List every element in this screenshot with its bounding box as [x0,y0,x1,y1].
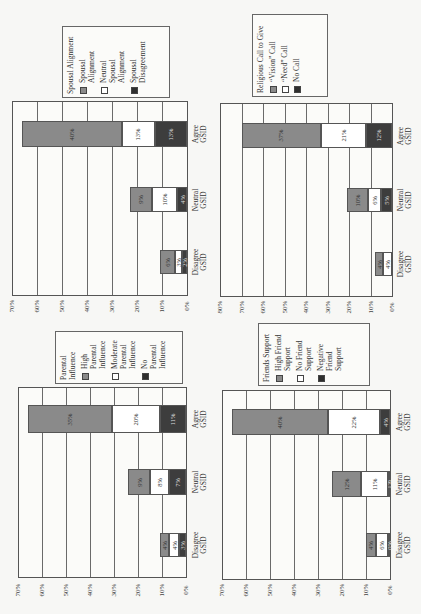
axis-tick-label: 50% [58,294,66,318]
legend-item: No Call [292,20,301,93]
segment-value-label: 3% [175,258,182,267]
stacked-bar-neutral-gsid: 4%10%9% [130,187,188,212]
legend-swatch-icon [80,87,87,94]
category-label-line: GSID [405,249,413,279]
legend-label: SpousalDisagreement [129,41,147,83]
legend-swatch-icon [142,373,149,380]
segment-value-label: 40% [276,416,283,428]
legend-label: No FriendSupport [295,340,313,371]
legend-title: Friends Support [262,329,271,382]
legend-item: NeutralSpousalAlignment [99,32,126,94]
bar-segment: 13% [155,121,188,147]
category-label: NeutralGSID [192,467,208,497]
legend-item: SpousalAlignment [78,32,96,94]
axis-tick-label: 10% [367,295,375,319]
legend-swatch-icon [318,375,325,382]
axis-tick-label: 50% [62,578,70,602]
segment-value-label: 9% [137,195,144,204]
category-label-line: GSID [404,530,412,560]
legend-label-line: Spousal [78,51,87,83]
legend-label-line: Parental [89,341,98,369]
legend-item: SpousalDisagreement [129,32,147,94]
legend-content: Religious Call to Give“Vision” Call“Need… [253,15,329,98]
stacked-bar-neutral-gsid: 5%6%10% [347,188,392,212]
bar-segment: 10% [347,188,369,212]
bar-segment: 4% [177,187,187,212]
legend-swatch-icon [131,87,138,94]
segment-value-label: 4% [382,418,389,427]
legend-label: No Call [292,58,301,82]
stacked-bar-neutral-gsid: 7%8%9% [128,469,186,495]
segment-value-label: 20% [132,413,139,425]
category-label: DisagreeGSID [396,530,412,560]
axis-tick-label: 20% [133,294,141,318]
legend-label: “Need” Call [280,45,289,82]
bar-segment: 13% [122,121,155,147]
axis-tick-label: 10% [158,578,166,602]
axis-tick-label: 20% [134,578,142,602]
stacked-bar-disagree-gsid: 3%4%4% [160,533,186,557]
legend-label-line: Friend [325,344,334,371]
legend-title: Religious Call to Give [256,20,265,93]
axis-tick-label: 40% [83,294,91,318]
legend-label-line: Alignment [87,51,96,83]
bar-segment: 3% [175,250,183,274]
legend-item: High FriendSupport [274,329,292,382]
segment-value-label: 21% [340,130,347,142]
legend-label: “Vision” Call [268,41,277,82]
segment-value-label: 4% [384,260,391,269]
segment-value-label: 11% [169,413,176,425]
legend-label-line: Support [304,340,313,371]
bar-segment: 4% [383,252,392,276]
legend-label-line: Parental [149,341,158,369]
axis-tick-label: 80% [216,295,224,319]
axis-tick-label: 10% [158,294,166,318]
legend-title: Parental Influence [59,337,77,380]
segment-value-label: 8% [156,478,163,487]
segment-value-label: 11% [371,478,378,490]
stacked-bar-agree-gsid: 11%20%35% [28,405,186,433]
legend-label-line: Spousal [129,41,138,83]
legend-item: NegativeFriendSupport [316,329,343,382]
category-label: AgreeGSID [396,407,412,437]
legend-label-line: Support [334,344,343,371]
legend-label-line: Influence [128,340,137,369]
axis-tick-label: 30% [108,294,116,318]
legend-swatch-icon [297,375,304,382]
legend-label-line: Support [283,335,292,371]
bar-segment: 40% [22,121,122,147]
legend-label-line: High Friend [274,335,283,371]
legend-label-line: High [80,341,89,369]
segment-value-label: 6% [371,196,378,205]
segment-value-label: 13% [167,128,174,140]
legend-label: NeutralSpousalAlignment [99,51,126,83]
axis-tick-label: 0% [182,578,190,602]
legend-label-line: “Vision” Call [268,41,277,82]
legend-swatch-icon [270,86,277,93]
segment-value-label: 7% [174,478,181,487]
axis-tick-label: 70% [238,295,246,319]
segment-value-label: 6% [163,258,170,267]
legend-label-line: “Need” Call [280,45,289,82]
axis-tick-label: 30% [314,578,322,602]
legend-label-line: Moderate [110,340,119,369]
axis-tick-label: 0% [183,294,191,318]
bar-segment: 6% [376,533,388,557]
legend-label-line: Influence [158,341,167,369]
category-label-line: GSID [200,404,208,434]
category-label-line: GSID [200,185,208,215]
stacked-bar-disagree-gsid: 4%4% [375,252,392,276]
bar-segment: 4% [380,409,390,435]
axis-tick-label: 60% [38,578,46,602]
bar-segment: 4% [160,533,170,557]
legend-label-line: Influence [98,341,107,369]
legend-friends: Friends SupportHigh FriendSupportNo Frie… [258,323,370,386]
bar-segment: 2% [182,250,187,274]
legend-swatch-icon [282,86,289,93]
bar-segment: 9% [130,187,153,212]
category-label-line: GSID [200,530,208,560]
bar-segment: 6% [160,250,175,274]
legend-label: High FriendSupport [274,335,292,371]
axis-tick-label: 10% [362,578,370,602]
axis-tick-label: 70% [218,578,226,602]
